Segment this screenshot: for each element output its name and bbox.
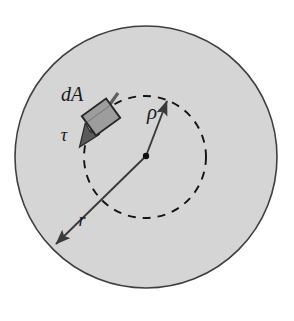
- torsion-cross-section-figure: dA τ ρ r: [0, 0, 294, 321]
- label-shear-stress: τ: [61, 125, 68, 145]
- label-outer-radius: r: [78, 210, 86, 230]
- figure-canvas: dA τ ρ r: [0, 0, 294, 321]
- label-area-element: dA: [61, 83, 84, 105]
- center-dot: [143, 153, 149, 159]
- label-inner-radius: ρ: [146, 100, 157, 124]
